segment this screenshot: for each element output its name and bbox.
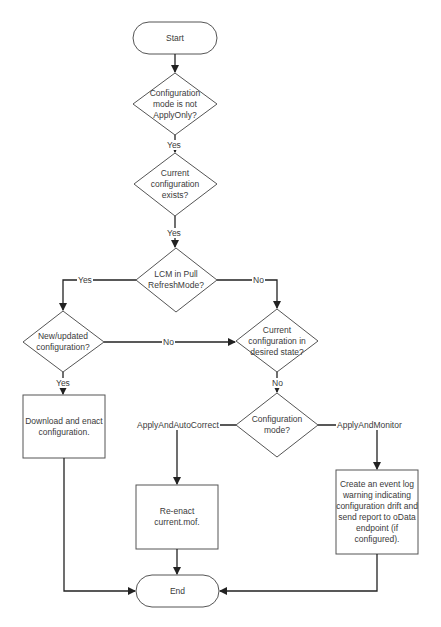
box3-line2: warning indicating <box>343 490 411 501</box>
decision-lcm-pull-refresh-label: LCM in Pull RefreshMode? <box>126 268 226 292</box>
edge-label-apply-auto-correct: ApplyAndAutoCorrect <box>136 420 220 430</box>
edge-label-d1-yes: Yes <box>166 140 182 150</box>
d1-line3: ApplyOnly? <box>153 110 196 121</box>
d3-line1: LCM in Pull <box>154 269 197 280</box>
process-reenact-label: Re-enact current.mof. <box>136 485 218 549</box>
d1-line2: mode is not <box>153 99 197 110</box>
start-text: Start <box>166 33 184 44</box>
box3-line5: endpoint (if <box>356 523 398 534</box>
d5-line1: Current <box>263 325 291 336</box>
decision-new-updated-config-label: New/updated configuration? <box>13 330 113 354</box>
box2-line2: current.mof. <box>154 517 199 528</box>
box3-line4: send report to oData <box>338 512 416 523</box>
edge-label-d3-yes: Yes <box>77 275 93 285</box>
d4-line1: New/updated <box>38 331 88 342</box>
d1-line1: Configuration <box>150 88 201 99</box>
decision-current-config-exists-label: Current configuration exists? <box>125 166 225 202</box>
start-label: Start <box>133 22 217 54</box>
decision-config-mode-label: Configuration mode? <box>227 413 327 437</box>
edge-label-apply-monitor: ApplyAndMonitor <box>336 420 403 430</box>
d2-line3: exists? <box>162 190 188 201</box>
end-label: End <box>136 575 219 607</box>
box2-line1: Re-enact <box>160 506 195 517</box>
edge-label-d5-no: No <box>271 378 284 388</box>
d2-line1: Current <box>161 168 189 179</box>
d4-line2: configuration? <box>36 342 89 353</box>
d6-line1: Configuration <box>252 414 303 425</box>
process-download-enact-label: Download and enact configuration. <box>23 395 105 458</box>
edge-label-d3-no: No <box>252 275 265 285</box>
box3-line3: configuration drift and <box>336 501 418 512</box>
decision-desired-state-label: Current configuration in desired state? <box>227 323 327 359</box>
d6-line2: mode? <box>264 425 290 436</box>
edge-label-d4-yes: Yes <box>55 378 71 388</box>
d5-line3: desired state? <box>250 347 303 358</box>
d2-line2: configuration <box>151 179 200 190</box>
process-event-log-label: Create an event log warning indicating c… <box>334 470 420 554</box>
box1-line2: configuration. <box>38 427 89 438</box>
end-text: End <box>170 586 185 597</box>
d3-line2: RefreshMode? <box>148 280 204 291</box>
box3-line6: configured). <box>355 534 400 545</box>
edge-label-d4-no: No <box>162 337 175 347</box>
box3-line1: Create an event log <box>340 479 414 490</box>
decision-mode-not-applyonly-label: Configuration mode is not ApplyOnly? <box>125 86 225 122</box>
edge-label-d2-yes: Yes <box>166 228 182 238</box>
box1-line1: Download and enact <box>25 416 103 427</box>
d5-line2: configuration in <box>248 336 306 347</box>
